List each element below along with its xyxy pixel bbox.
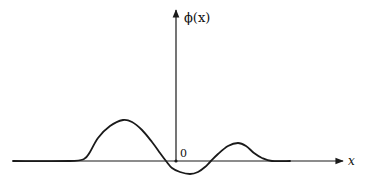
origin-point bbox=[174, 159, 177, 162]
phi-curve bbox=[13, 120, 290, 174]
origin-label: 0 bbox=[180, 147, 187, 160]
x-axis-label: x bbox=[348, 154, 355, 168]
y-axis-label: ϕ(x) bbox=[184, 10, 210, 25]
wavefunction-diagram: ϕ(x) x 0 bbox=[0, 0, 365, 184]
